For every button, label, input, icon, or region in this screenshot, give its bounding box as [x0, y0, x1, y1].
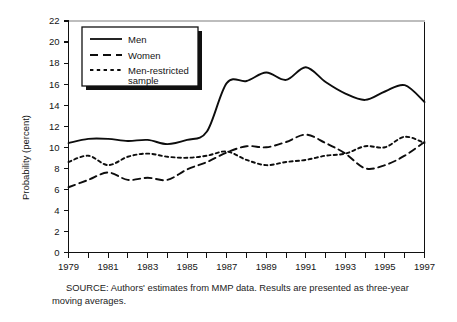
y-axis-title: Probability (percent) — [20, 115, 31, 200]
y-tick-label-20: 20 — [49, 36, 60, 47]
y-tick-label-4: 4 — [54, 205, 59, 216]
y-tick-label-8: 8 — [54, 163, 59, 174]
figure-caption: SOURCE: Authors' estimates from MMP data… — [0, 282, 457, 307]
y-tick-label-16: 16 — [49, 79, 60, 90]
x-tick-label-1991: 1991 — [295, 261, 316, 272]
y-tick-label-2: 2 — [54, 226, 59, 237]
y-tick-label-0: 0 — [54, 247, 59, 258]
x-tick-label-1981: 1981 — [97, 261, 118, 272]
y-tick-label-18: 18 — [49, 57, 60, 68]
y-tick-label-22: 22 — [49, 15, 60, 26]
legend-label-men: Men — [128, 34, 146, 45]
y-tick-label-12: 12 — [49, 121, 60, 132]
x-tick-group: 1979198119831985198719891991199319951997 — [58, 253, 435, 272]
figure-container: Probability (percent) 024681012141618202… — [0, 0, 457, 322]
x-tick-label-1983: 1983 — [137, 261, 158, 272]
caption-line-1: SOURCE: Authors' estimates from MMP data… — [66, 282, 364, 293]
legend-label-men-restricted-line2: sample — [128, 75, 159, 86]
series-path-women — [69, 135, 425, 188]
x-tick-label-1995: 1995 — [374, 261, 395, 272]
x-tick-label-1987: 1987 — [216, 261, 237, 272]
line-chart: Probability (percent) 024681012141618202… — [0, 0, 457, 290]
y-tick-label-6: 6 — [54, 184, 59, 195]
y-tick-label-14: 14 — [49, 100, 60, 111]
legend-label-women: Women — [128, 50, 161, 61]
x-tick-label-1993: 1993 — [335, 261, 356, 272]
y-tick-group: 0246810121416182022 — [49, 15, 69, 258]
chart-legend: Men Women Men-restricted sample — [82, 27, 202, 90]
x-tick-label-1979: 1979 — [58, 261, 79, 272]
x-tick-label-1997: 1997 — [414, 261, 435, 272]
x-tick-label-1985: 1985 — [177, 261, 198, 272]
x-tick-label-1989: 1989 — [256, 261, 277, 272]
y-axis-title-text: Probability (percent) — [20, 115, 31, 200]
y-tick-label-10: 10 — [49, 142, 60, 153]
